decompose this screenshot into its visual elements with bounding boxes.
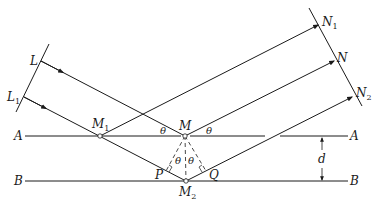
label-m: M: [178, 119, 192, 133]
label-q: Q: [209, 168, 219, 182]
right-angle-p: [169, 165, 172, 172]
label-n2: N2: [355, 86, 372, 102]
point-m: [183, 134, 187, 138]
label-b-left: B: [13, 174, 23, 188]
label-l: L: [29, 54, 38, 68]
bragg-diagram: L L1 N1 N N2 M1 M M2 A A B B P Q d θ θ θ…: [0, 0, 372, 203]
theta-reflected: θ: [206, 125, 212, 136]
reflected-ray-n1: [100, 25, 318, 136]
label-a-right: A: [349, 129, 359, 143]
label-n: N: [336, 51, 348, 65]
label-l1: L1: [6, 90, 20, 106]
right-angle-q: [199, 165, 202, 172]
label-a-left: A: [13, 129, 23, 143]
label-b-right: B: [349, 174, 359, 188]
label-p: P: [154, 168, 164, 182]
label-m1: M1: [91, 117, 109, 133]
label-m2: M2: [178, 185, 196, 201]
arrow-l1: [24, 97, 46, 109]
point-m1: [98, 134, 102, 138]
theta-right-inner: θ: [188, 155, 194, 166]
arrow-l: [41, 61, 63, 73]
label-d: d: [318, 152, 326, 166]
theta-left-inner: θ: [175, 155, 181, 166]
point-m2: [184, 179, 188, 183]
theta-incident: θ: [160, 125, 166, 136]
dashed-mm2: [185, 136, 186, 181]
label-n1: N1: [321, 15, 338, 31]
